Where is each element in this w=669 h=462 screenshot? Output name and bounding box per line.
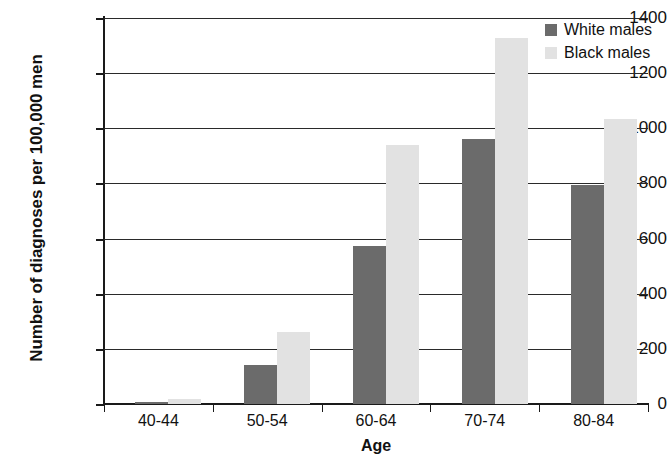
legend-label: White males [564,21,652,39]
legend-swatch-icon [545,24,557,36]
gridline [104,128,648,129]
x-tick-label-40-44: 40-44 [103,412,213,430]
x-tick-mark [213,404,214,412]
plot-area [104,18,648,404]
legend-swatch-icon [545,47,557,59]
bar-70-74-black-males [495,38,528,404]
bar-60-64-black-males [386,145,419,404]
gridline [104,73,648,74]
x-tick-mark [322,404,323,412]
x-tick-mark [104,404,105,412]
x-tick-label-70-74: 70-74 [430,412,540,430]
legend-label: Black males [564,44,650,62]
bar-80-84-white-males [571,185,604,404]
legend-item-white-males: White males [545,18,669,41]
x-tick-label-60-64: 60-64 [321,412,431,430]
y-axis-title: Number of diagnoses per 100,000 men [27,13,47,403]
bar-60-64-white-males [353,246,386,404]
x-tick-mark [430,404,431,412]
gridline [104,239,648,240]
chart-legend: White malesBlack males [545,18,669,64]
x-tick-mark [648,404,649,412]
x-tick-label-50-54: 50-54 [212,412,322,430]
bar-40-44-white-males [135,402,168,404]
bar-80-84-black-males [604,119,637,404]
legend-item-black-males: Black males [545,41,669,64]
x-axis-title: Age [104,437,648,455]
bar-chart: Number of diagnoses per 100,000 men 1400… [0,0,669,462]
bar-50-54-black-males [277,332,310,404]
bar-50-54-white-males [244,365,277,404]
bar-70-74-white-males [462,139,495,404]
bar-40-44-black-males [168,399,201,405]
x-tick-mark [539,404,540,412]
gridline [104,183,648,184]
x-tick-label-80-84: 80-84 [539,412,649,430]
